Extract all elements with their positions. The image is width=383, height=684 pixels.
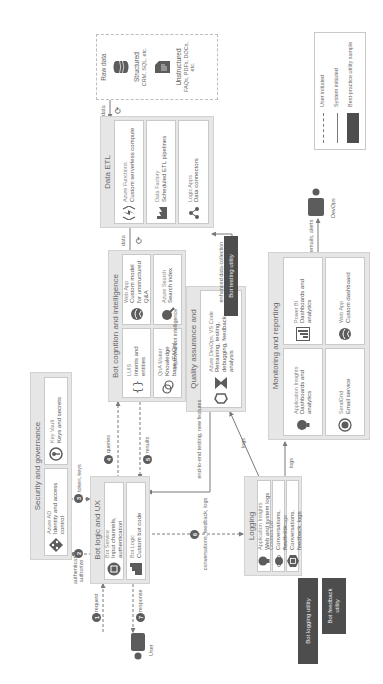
sync-icon: ⟳	[113, 106, 123, 114]
service-desc: Email service	[345, 378, 352, 414]
data-to-cognition-label: data	[120, 235, 126, 246]
legend-user-initiated: User initiated	[319, 75, 325, 107]
authenticate-label: authenticate, authorize	[72, 558, 85, 584]
bot-logging-utility: Bot logging utility	[298, 578, 318, 664]
azure-ad-icon	[49, 538, 63, 552]
group-title: Security and governance	[33, 373, 42, 559]
legend-solid-line	[337, 113, 338, 143]
service-desc: Keys and secrets	[56, 397, 63, 443]
key-vault-icon	[49, 447, 63, 461]
logic-apps-icon	[187, 206, 201, 220]
service-desc: Custom serverless compute	[129, 128, 136, 202]
azure-functions-icon	[122, 206, 136, 220]
service-luis: {} LUISIntents and entities	[122, 328, 151, 398]
data-to-etl-label: data	[100, 105, 106, 116]
logs-to-qa-label: logs	[240, 438, 246, 448]
group-monitoring-reporting: Monitoring and reporting Application Ins…	[268, 252, 370, 440]
end-to-end-testing-label: end-to-end testing, new features	[196, 399, 202, 479]
web-app-icon	[338, 327, 352, 341]
devops-actor: DevOps	[304, 188, 332, 218]
service-desc: Data connectors	[193, 158, 200, 202]
service-desc: Identity and access control	[52, 472, 66, 534]
unstructured-desc: FAQs, PDFs, DOCs, etc.	[183, 41, 196, 93]
service-key-vault: Key VaultKeys and secrets	[44, 377, 68, 465]
step-6-badge: 6	[190, 530, 199, 539]
group-bot-logic-ux: Bot logic and UX Bot ServiceInput channe…	[90, 476, 150, 584]
request-label: request	[93, 594, 99, 612]
response-label: response	[137, 589, 143, 612]
bot-testing-utility: Bot testing utility	[224, 236, 238, 316]
group-data-etl: Data ETL Azure FunctionsCustom serverles…	[100, 116, 214, 228]
web-app-icon	[130, 307, 144, 321]
structured-label: Structured	[133, 35, 140, 99]
raw-data-title: Raw data	[100, 35, 107, 99]
document-icon	[155, 61, 174, 73]
power-bi-icon	[296, 327, 310, 341]
bot-service-icon	[107, 562, 121, 576]
app-insights-icon	[258, 554, 270, 568]
group-title: Bot cognition and intelligence	[111, 251, 120, 401]
group-logging: Logging Application InsightsWeb and syst…	[244, 476, 302, 576]
legend-system-initiated: System initiated	[333, 68, 339, 107]
service-desc: Custom model for unstructured Q&A	[129, 258, 150, 303]
azure-storage-icon	[287, 554, 299, 568]
service-azure-storage: Azure StorageConversations, feedback, lo…	[286, 480, 299, 572]
conversations-label: conversations, feedback, logs	[202, 496, 208, 572]
service-desc: Input channels, authentication	[110, 486, 124, 558]
sendgrid-icon	[338, 418, 352, 432]
step-3-badge: 3	[74, 494, 83, 503]
results-label: results	[144, 437, 150, 453]
logs-to-monitoring-label: logs	[288, 458, 294, 468]
service-web-app: Web AppCustom model for unstructured Q&A	[122, 254, 151, 325]
emails-alerts-label: emails, alerts	[308, 220, 314, 252]
service-desc: Dashboards and analytics	[299, 352, 313, 414]
database-icon	[113, 60, 133, 74]
person-icon	[304, 188, 328, 218]
user-label: User	[148, 644, 154, 656]
service-bot-logic: Bot LogicCustom bot code	[126, 482, 146, 580]
user-actor: User	[128, 630, 152, 660]
group-security-governance: Security and governance Azure ADIdentity…	[30, 372, 72, 560]
service-desc: Custom bot code	[136, 513, 143, 558]
service-bot-service: Bot ServiceInput channels, authenticatio…	[104, 482, 124, 580]
luis-icon: {}	[130, 380, 144, 394]
legend-dashed-line	[323, 113, 324, 143]
step-4-badge: 4	[104, 455, 113, 464]
legend: User initiated System initiated Best-pra…	[314, 32, 366, 150]
legend-best-practice: Best-practice utility sample	[347, 37, 353, 107]
devops-icon	[214, 376, 228, 404]
sync-icon: ⟳	[134, 236, 144, 244]
step-5-badge: 5	[143, 455, 152, 464]
service-desc: Dashboards and analytics	[299, 261, 313, 323]
svg-text:{}: {}	[131, 380, 144, 394]
service-data-factory: Data FactoryScheduled ETL pipelines	[146, 120, 176, 224]
step-1-badge: 1	[92, 613, 101, 622]
service-azure-functions: Azure FunctionsCustom serverless compute	[114, 120, 144, 224]
service-sendgrid: SendGridEmail service	[325, 348, 365, 436]
data-factory-icon	[154, 206, 168, 220]
architecture-diagram: Security and governance Azure ADIdentity…	[0, 0, 383, 684]
structured-desc: CRM, SQL, etc.	[141, 35, 147, 99]
service-logic-apps: Logic AppsData connectors	[178, 120, 209, 224]
queries-label: queries	[105, 435, 111, 453]
bot-feedback-utility: Bot feedback utility	[322, 578, 346, 634]
cosmos-db-icon	[273, 554, 285, 568]
group-title: Bot logic and UX	[93, 477, 102, 583]
service-desc: Intents and entities	[133, 332, 147, 376]
group-raw-data: Raw data Structured CRM, SQL, etc. Unstr…	[96, 34, 218, 100]
group-title: Data ETL	[103, 117, 112, 227]
step-7-badge: 7	[136, 613, 145, 622]
unstructured-label: Unstructured	[175, 35, 182, 99]
service-desc: Scheduled ETL pipelines	[161, 136, 168, 202]
devops-label: DevOps	[330, 198, 336, 218]
service-desc: Custom dashboard	[345, 272, 352, 323]
service-web-app-dashboard: Web AppCustom dashboard	[325, 257, 365, 345]
legend-utility-swatch	[347, 113, 359, 143]
service-app-insights-monitoring: Application InsightsDashboards and analy…	[283, 348, 323, 436]
group-title: Logging	[247, 477, 256, 575]
person-icon	[128, 630, 148, 660]
tokens-label: token, keys	[76, 464, 82, 492]
service-power-bi: Power BIDashboards and analytics	[283, 257, 323, 345]
improved-intelligence-label: improved bot intelligence	[172, 294, 178, 384]
service-desc: Conversations, feedback, logs	[289, 484, 303, 550]
